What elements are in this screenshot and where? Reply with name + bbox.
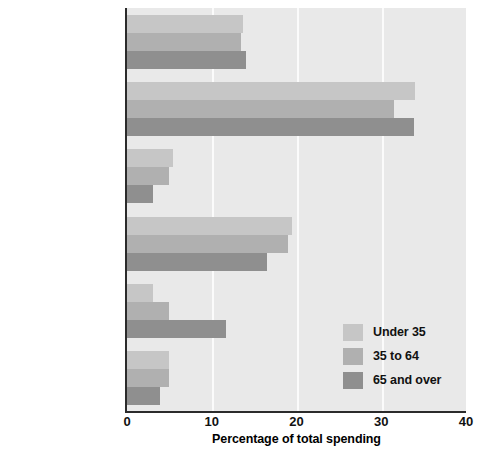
legend-swatch-icon [343, 348, 363, 365]
legend-swatch-icon [343, 372, 363, 389]
x-axis-title: Percentage of total spending [127, 432, 466, 446]
bar [127, 217, 292, 235]
bar [127, 320, 226, 338]
x-tick-label: 30 [361, 414, 401, 429]
legend-swatch-icon [343, 324, 363, 341]
bar [127, 167, 169, 185]
bar [127, 118, 414, 136]
bar [127, 253, 267, 271]
gridline-20 [297, 8, 299, 412]
bar [127, 235, 288, 253]
legend-item-65-and-over[interactable]: 65 and over [343, 368, 441, 392]
bar [127, 185, 153, 203]
legend-item-35-to-64[interactable]: 35 to 64 [343, 344, 441, 368]
bar [127, 149, 173, 167]
legend-label: 65 and over [373, 373, 441, 387]
bar [127, 15, 243, 33]
bar [127, 51, 246, 69]
x-axis-line [125, 411, 466, 413]
x-tick-label: 10 [192, 414, 232, 429]
bar [127, 369, 169, 387]
x-tick-label: 0 [107, 414, 147, 429]
bar [127, 284, 153, 302]
bar [127, 33, 241, 51]
bar [127, 82, 415, 100]
legend-item-under-35[interactable]: Under 35 [343, 320, 441, 344]
legend-label: 35 to 64 [373, 349, 419, 363]
bar [127, 302, 169, 320]
bar [127, 387, 160, 405]
x-tick-label: 20 [277, 414, 317, 429]
x-tick-label: 40 [446, 414, 478, 429]
legend-label: Under 35 [373, 325, 426, 339]
bar [127, 351, 169, 369]
bar [127, 100, 394, 118]
chart-legend: Under 35 35 to 64 65 and over [343, 320, 441, 392]
